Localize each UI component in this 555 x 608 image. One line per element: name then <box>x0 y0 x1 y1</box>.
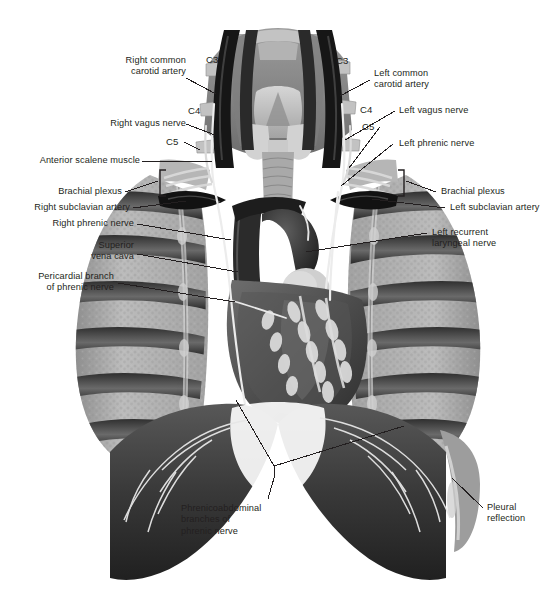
label-right-vagus-nerve: Right vagus nerve <box>58 118 186 129</box>
label-c5-right: C5 <box>166 136 178 147</box>
label-superior-vena-cava: Superior vena cava <box>34 240 134 263</box>
label-left-vagus-nerve: Left vagus nerve <box>399 105 519 116</box>
label-c4-right: C4 <box>188 105 200 116</box>
label-c3-right: C3 <box>206 54 218 65</box>
label-c5-left: C5 <box>362 121 374 132</box>
label-brachial-plexus-right: Brachial plexus <box>18 186 122 197</box>
label-right-phrenic-nerve: Right phrenic nerve <box>18 218 134 229</box>
label-pleural-reflection: Pleural reflection <box>487 502 549 525</box>
label-brachial-plexus-left: Brachial plexus <box>441 186 545 197</box>
label-left-common-carotid-artery: Left common carotid artery <box>374 68 504 91</box>
mediastinum <box>227 197 367 426</box>
label-phrenicoabdominal-branches: Phrenicoabdominal branches of phrenic ne… <box>181 503 301 537</box>
label-right-common-carotid-artery: Right common carotid artery <box>58 55 186 78</box>
label-c4-left: C4 <box>360 104 372 115</box>
label-left-subclavian-artery: Left subclavian artery <box>450 202 554 213</box>
label-right-subclavian-artery: Right subclavian artery <box>14 202 130 213</box>
anatomical-figure: Right common carotid artery C3 C4 Right … <box>0 0 555 608</box>
label-pericardial-branch-of-phrenic-nerve: Pericardial branch of phrenic nerve <box>14 271 114 294</box>
label-c3-left: C3 <box>336 55 348 66</box>
label-left-phrenic-nerve: Left phrenic nerve <box>399 138 523 149</box>
label-anterior-scalene-muscle: Anterior scalene muscle <box>18 155 140 166</box>
label-left-recurrent-laryngeal-nerve: Left recurrent laryngeal nerve <box>432 227 542 250</box>
